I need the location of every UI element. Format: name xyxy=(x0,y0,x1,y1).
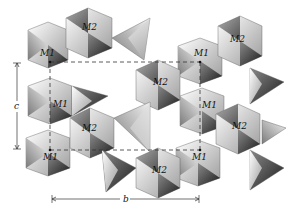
crystal-structure-diagram: c b M2 M1 M1 M2 M1 M2 M1 M2 M1 M2 M2 M1 xyxy=(0,0,297,214)
tetrahedron-right-top xyxy=(250,68,284,104)
octahedron-m2-mid-left xyxy=(70,108,114,158)
tetrahedron-right-bottom xyxy=(250,150,284,190)
tetrahedron-center-low xyxy=(102,150,136,192)
tetrahedron-center-mid xyxy=(114,102,150,152)
label-m1: M1 xyxy=(193,48,209,58)
label-m2: M2 xyxy=(229,34,245,44)
label-m1: M1 xyxy=(191,152,207,162)
label-m2: M2 xyxy=(81,123,97,133)
label-m1: M1 xyxy=(201,100,217,110)
octahedron-m2-top-left xyxy=(66,8,112,58)
label-m1: M1 xyxy=(42,152,58,162)
octahedron-m1-top-left xyxy=(28,22,68,68)
octahedron-m1-bottom-right xyxy=(176,140,220,186)
label-m2: M2 xyxy=(151,165,167,175)
tetrahedron-top-center xyxy=(112,18,150,60)
c-axis-label: c xyxy=(14,101,19,111)
label-m2: M2 xyxy=(81,22,97,32)
label-m1: M1 xyxy=(39,48,55,58)
b-axis-label: b xyxy=(123,194,129,204)
label-m2: M2 xyxy=(152,77,168,87)
label-m2: M2 xyxy=(231,121,247,131)
label-m1: M1 xyxy=(52,99,68,109)
tetrahedron-right-mid xyxy=(262,120,286,144)
